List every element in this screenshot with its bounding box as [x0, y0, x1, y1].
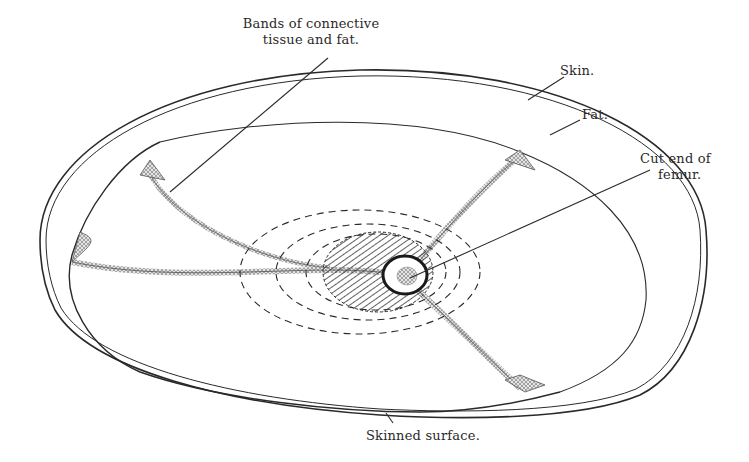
label-bands-line1: Bands of connective	[236, 16, 386, 32]
label-skin: Skin.	[560, 63, 594, 79]
label-fat: Fat.	[582, 107, 608, 123]
label-skinned-surface: Skinned surface.	[366, 428, 480, 444]
label-cut-end-of-femur: Cut end of femur.	[640, 151, 711, 183]
label-femur-line2: femur.	[640, 167, 711, 183]
label-bands-of-connective-tissue: Bands of connective tissue and fat.	[236, 16, 386, 48]
femur-cross-section	[383, 256, 427, 294]
label-femur-line1: Cut end of	[640, 151, 711, 167]
label-bands-line2: tissue and fat.	[236, 32, 386, 48]
cross-section-diagram	[0, 0, 749, 462]
connective-tissue-bands	[72, 150, 545, 392]
